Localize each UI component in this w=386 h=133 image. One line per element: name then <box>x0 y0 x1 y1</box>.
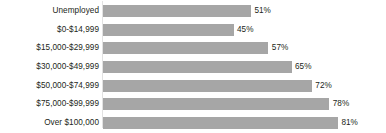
bar <box>103 98 329 110</box>
bar <box>103 5 251 17</box>
bar <box>103 24 234 36</box>
chart-row: $75,000-$99,99978% <box>0 95 386 114</box>
bar-value-label: 57% <box>272 43 289 53</box>
category-label: Over $100,000 <box>44 118 99 128</box>
bar-track <box>103 117 338 129</box>
bar-track <box>103 42 268 54</box>
bar-value-label: 51% <box>254 6 271 16</box>
chart-row: $0-$14,99945% <box>0 21 386 40</box>
bar-track <box>103 80 312 92</box>
chart-row: $30,000-$49,99965% <box>0 58 386 77</box>
category-label: $50,000-$74,999 <box>36 81 99 91</box>
bar <box>103 42 268 54</box>
category-label: $15,000-$29,999 <box>36 43 99 53</box>
bar <box>103 61 292 73</box>
bar-track <box>103 98 329 110</box>
chart-row: Unemployed51% <box>0 2 386 21</box>
horizontal-bar-chart: Unemployed51%$0-$14,99945%$15,000-$29,99… <box>0 0 386 133</box>
plot-area: Unemployed51%$0-$14,99945%$15,000-$29,99… <box>0 0 386 133</box>
bar-value-label: 65% <box>295 62 312 72</box>
bar-value-label: 81% <box>341 118 358 128</box>
bar-value-label: 72% <box>315 81 332 91</box>
category-label: $0-$14,999 <box>57 25 99 35</box>
chart-row: $15,000-$29,99957% <box>0 39 386 58</box>
bar-track <box>103 24 234 36</box>
bar-track <box>103 5 251 17</box>
bar-track <box>103 61 292 73</box>
bar-value-label: 78% <box>333 99 350 109</box>
bar <box>103 117 338 129</box>
chart-row: Over $100,00081% <box>0 114 386 133</box>
bar-value-label: 45% <box>237 25 254 35</box>
category-label: $30,000-$49,999 <box>36 62 99 72</box>
bar <box>103 80 312 92</box>
category-label: $75,000-$99,999 <box>36 99 99 109</box>
category-label: Unemployed <box>53 6 99 16</box>
chart-row: $50,000-$74,99972% <box>0 76 386 95</box>
